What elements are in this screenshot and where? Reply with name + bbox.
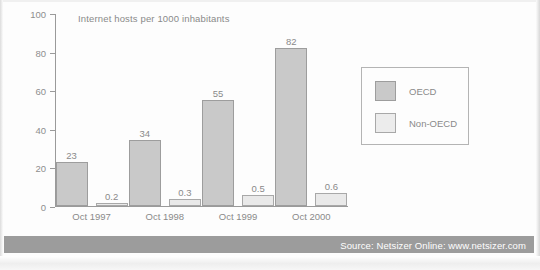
- bar-value-label: 0.6: [325, 181, 338, 192]
- chart-legend: OECD Non-OECD: [361, 67, 469, 145]
- bar-oecd: 82: [275, 48, 307, 206]
- y-tick-mark: [50, 207, 55, 208]
- bar-group: 230.2Oct 1997: [55, 14, 128, 206]
- y-tick-label: 40: [35, 124, 46, 135]
- legend-item-oecd: OECD: [375, 81, 436, 101]
- y-tick-label: 60: [35, 86, 46, 97]
- x-tick-label: Oct 1997: [72, 211, 111, 222]
- bar-group: 550.5Oct 1999: [202, 14, 275, 206]
- bar-oecd: 23: [56, 162, 88, 206]
- bar-non-oecd: 0.6: [315, 193, 347, 206]
- y-tick-label: 20: [35, 163, 46, 174]
- bar-non-oecd: 0.3: [169, 199, 201, 206]
- x-axis-line: [55, 206, 348, 207]
- legend-label-oecd: OECD: [409, 86, 436, 97]
- bar-non-oecd: 0.2: [96, 203, 128, 206]
- plot-area: Internet hosts per 1000 inhabitants 0204…: [55, 14, 348, 207]
- bar-value-label: 23: [66, 150, 77, 161]
- bar-value-label: 0.5: [252, 183, 265, 194]
- legend-swatch-non-oecd: [375, 113, 396, 133]
- y-tick-label: 0: [41, 202, 46, 213]
- bar-group: 340.3Oct 1998: [128, 14, 201, 206]
- x-tick-label: Oct 1999: [219, 211, 258, 222]
- bar-oecd: 55: [202, 100, 234, 206]
- bar-value-label: 82: [286, 36, 297, 47]
- page-edge-left: [0, 0, 3, 270]
- page-edge-top: [0, 0, 540, 2]
- page-edge-bottom: [0, 256, 540, 270]
- bar-value-label: 55: [213, 88, 224, 99]
- page-edge-right: [536, 0, 540, 270]
- bar-value-label: 0.2: [105, 191, 118, 202]
- x-tick-label: Oct 1998: [146, 211, 185, 222]
- bar-non-oecd: 0.5: [242, 195, 274, 206]
- bar-group: 820.6Oct 2000: [275, 14, 348, 206]
- y-tick-label: 100: [30, 9, 46, 20]
- legend-swatch-oecd: [375, 81, 396, 101]
- source-text: Source: Netsizer Online: www.netsizer.co…: [340, 239, 526, 250]
- bar-value-label: 0.3: [178, 187, 191, 198]
- x-tick-label: Oct 2000: [292, 211, 331, 222]
- legend-label-non-oecd: Non-OECD: [409, 118, 457, 129]
- bar-oecd: 34: [129, 140, 161, 206]
- source-band: Source: Netsizer Online: www.netsizer.co…: [4, 236, 534, 253]
- chart-figure: Internet hosts per 1000 inhabitants 0204…: [0, 0, 540, 270]
- bar-value-label: 34: [140, 128, 151, 139]
- y-tick-label: 80: [35, 47, 46, 58]
- legend-item-non-oecd: Non-OECD: [375, 113, 457, 133]
